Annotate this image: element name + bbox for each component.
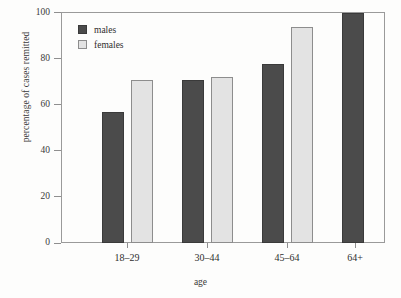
- bar-males-30-44: [182, 80, 204, 243]
- y-tick-mark-0: [54, 243, 61, 244]
- x-tick-mark-18-29: [127, 243, 128, 248]
- bar-females-30-44: [211, 77, 233, 243]
- x-tick-mark-64-plus: [355, 243, 356, 248]
- bar-females-18-29: [131, 80, 153, 243]
- y-axis-title: percentage of cases remitted: [21, 7, 31, 167]
- y-tick-mark-40: [54, 150, 61, 151]
- y-tick-label-100: 100: [10, 8, 50, 18]
- x-tick-label-18-29: 18–29: [87, 252, 167, 263]
- legend-item-males: males: [78, 22, 124, 37]
- bar-males-64-plus: [342, 13, 364, 243]
- x-tick-label-64-plus: 64+: [315, 252, 395, 263]
- y-tick-mark-100: [54, 12, 61, 13]
- legend-item-females: females: [78, 37, 124, 52]
- y-tick-mark-60: [54, 104, 61, 105]
- x-tick-mark-45-64: [287, 243, 288, 248]
- y-tick-mark-20: [54, 196, 61, 197]
- legend-label-males: males: [94, 25, 116, 35]
- bar-males-45-64: [262, 64, 284, 243]
- x-axis-title: age: [0, 277, 401, 287]
- y-tick-mark-80: [54, 58, 61, 59]
- y-tick-label-40: 40: [10, 146, 50, 156]
- bar-chart-figure: percentage of cases remitted 100 80 60 4…: [0, 0, 401, 298]
- bar-males-18-29: [102, 112, 124, 243]
- legend-swatch-males-icon: [78, 25, 87, 34]
- legend-label-females: females: [94, 40, 124, 50]
- legend-swatch-females-icon: [78, 40, 87, 49]
- x-tick-mark-30-44: [207, 243, 208, 248]
- legend: males females: [78, 22, 124, 52]
- y-tick-label-60: 60: [10, 100, 50, 110]
- x-tick-label-30-44: 30–44: [167, 252, 247, 263]
- y-tick-label-0: 0: [10, 238, 50, 248]
- y-tick-label-20: 20: [10, 192, 50, 202]
- bar-females-45-64: [291, 27, 313, 243]
- y-tick-label-80: 80: [10, 54, 50, 64]
